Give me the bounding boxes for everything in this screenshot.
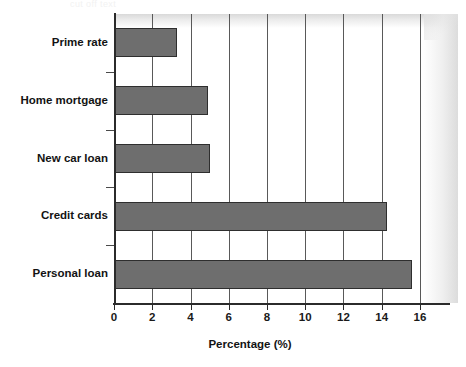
bar-new-car-loan [114,144,210,173]
category-label-home-mortgage: Home mortgage [0,94,108,106]
x-tick-8 [267,304,268,310]
x-axis-title-text: Percentage (%) [208,338,291,350]
x-tick-16 [420,304,421,310]
bar-personal-loan [114,260,412,289]
x-tick-label-2: 2 [149,311,155,323]
bar-credit-cards [114,202,387,231]
x-tick-label-16: 16 [413,311,426,323]
x-tick-12 [343,304,344,310]
category-label-prime-rate: Prime rate [0,36,108,48]
x-tick-label-14: 14 [375,311,388,323]
x-axis-title: Percentage (%) [0,338,466,350]
y-tick-2 [106,187,114,188]
x-tick-label-8: 8 [264,311,270,323]
x-tick-label-4: 4 [187,311,193,323]
category-label-slot: New car loan [0,152,108,166]
bar-home-mortgage [114,86,208,115]
category-label-slot: Credit cards [0,209,108,223]
category-label-slot: Prime rate [0,36,108,50]
x-tick-14 [382,304,383,310]
x-tick-10 [305,304,306,310]
x-tick-label-6: 6 [225,311,231,323]
x-tick-6 [229,304,230,310]
category-label-new-car-loan: New car loan [0,152,108,164]
x-tick-label-10: 10 [299,311,312,323]
bar-chart-figure: cut off text Prime rateHome mortgageNew … [0,0,466,367]
bar-prime-rate [114,28,177,57]
x-tick-label-12: 12 [337,311,350,323]
category-label-slot: Personal loan [0,267,108,281]
y-tick-1 [106,130,114,131]
x-tick-label-0: 0 [111,311,117,323]
category-label-credit-cards: Credit cards [0,209,108,221]
category-label-personal-loan: Personal loan [0,267,108,279]
y-tick-3 [106,245,114,246]
scan-artifact-text: cut off text [70,0,240,9]
x-tick-2 [152,304,153,310]
x-tick-4 [191,304,192,310]
category-label-slot: Home mortgage [0,94,108,108]
y-tick-0 [106,72,114,73]
x-axis-line [113,303,450,305]
gridline-16 [420,14,421,303]
y-axis-line [114,13,116,305]
